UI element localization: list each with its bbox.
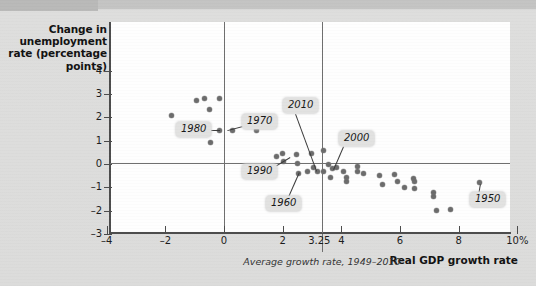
data-point [448, 207, 453, 212]
y-tick-mark [104, 141, 112, 142]
y-tick-mark [104, 211, 112, 212]
y-tick-label: –2 [82, 205, 102, 216]
callout-1990[interactable]: 1990 [242, 164, 277, 179]
x-tick-label-wrap: 0 [204, 235, 244, 249]
x-tick-mark [283, 226, 284, 234]
y-tick-label: 0 [82, 158, 102, 169]
plot-area [110, 22, 510, 233]
average-growth-reference-line [322, 22, 323, 233]
y-tick-label-wrap: –1 [82, 181, 102, 193]
data-point [217, 96, 222, 101]
callout-1960[interactable]: 1960 [266, 196, 301, 211]
x-tick-label: 8 [439, 235, 479, 246]
data-point [321, 148, 326, 153]
callout-1970[interactable]: 1970 [242, 114, 277, 129]
data-point [194, 98, 199, 103]
y-tick-label-wrap: 2 [82, 111, 102, 123]
x-tick-mark [341, 226, 342, 234]
x-tick-mark [224, 226, 225, 234]
chart-figure: Change in unemployment rate (percentage … [0, 0, 536, 286]
x-axis-line [109, 232, 511, 234]
y-tick-mark [104, 117, 112, 118]
y-tick-label-wrap: 0 [82, 158, 102, 170]
x-tick-label: 2 [263, 235, 303, 246]
x-tick-mark [517, 226, 518, 234]
y-axis-title-line-3: rate (percentage [2, 47, 107, 59]
data-point [402, 185, 407, 190]
callout-1980[interactable]: 1980 [176, 122, 211, 137]
average-growth-caption: Average growth rate, 1949–2010 [192, 256, 452, 267]
x-tick-label-wrap: 2 [263, 235, 303, 249]
y-tick-mark [104, 94, 112, 95]
y-tick-label: 4 [82, 65, 102, 76]
y-axis-title-line-2: unemployment [2, 35, 107, 47]
x-tick-label: 4 [321, 235, 361, 246]
callout-2000[interactable]: 2000 [339, 131, 374, 146]
x-tick-label-wrap: 6 [380, 235, 420, 249]
y-axis-line [109, 22, 111, 234]
data-point [295, 161, 300, 166]
data-point [355, 164, 360, 169]
y-tick-mark [104, 187, 112, 188]
y-tick-label: 3 [82, 88, 102, 99]
x-zero-reference-line [224, 22, 225, 233]
x-tick-label-wrap: 10% [497, 235, 536, 249]
page-top-tab [0, 0, 98, 11]
data-point [380, 182, 385, 187]
x-tick-mark [107, 226, 108, 234]
y-tick-label: 2 [82, 111, 102, 122]
y-tick-label: 1 [82, 135, 102, 146]
data-point [274, 154, 279, 159]
callout-1950[interactable]: 1950 [470, 192, 505, 207]
data-point [361, 171, 366, 176]
x-tick-mark [165, 226, 166, 234]
y-zero-reference-line [110, 163, 510, 164]
callout-2010[interactable]: 2010 [283, 98, 318, 113]
x-tick-label: –4 [87, 235, 127, 246]
y-tick-label-wrap: 3 [82, 88, 102, 100]
y-tick-mark [104, 164, 112, 165]
x-tick-label: 10% [497, 235, 536, 246]
x-tick-mark [400, 226, 401, 234]
x-tick-label: 6 [380, 235, 420, 246]
y-axis-title-line-1: Change in [2, 23, 107, 35]
y-tick-label-wrap: 4 [82, 65, 102, 77]
x-tick-label: 0 [204, 235, 244, 246]
x-tick-label-wrap: –2 [145, 235, 185, 249]
x-tick-mark [459, 226, 460, 234]
data-point [328, 175, 333, 180]
x-tick-label-wrap: 4 [321, 235, 361, 249]
y-tick-label-wrap: 1 [82, 135, 102, 147]
y-tick-label: –1 [82, 181, 102, 192]
y-tick-mark [104, 71, 112, 72]
y-tick-label-wrap: –2 [82, 205, 102, 217]
x-tick-label-wrap: –4 [87, 235, 127, 249]
x-tick-label-wrap: 8 [439, 235, 479, 249]
x-tick-label: –2 [145, 235, 185, 246]
